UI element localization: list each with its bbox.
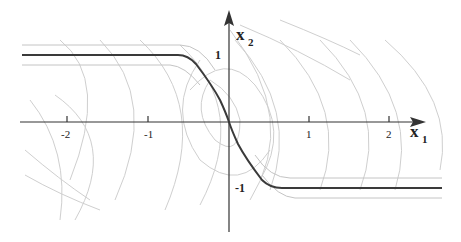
svg-text:x: x (236, 25, 245, 44)
x1-axis (20, 116, 426, 127)
x1-axis-label: x 1 (410, 122, 428, 145)
svg-text:1: 1 (422, 133, 428, 145)
x1-tick-label: 1 (306, 128, 312, 140)
x2-tick-label: 1 (215, 48, 221, 62)
trajectory-arcs (25, 20, 443, 220)
svg-text:x: x (410, 122, 419, 141)
x2-tick-label: -1 (235, 181, 245, 195)
phase-portrait-diagram: -2 -1 1 2 1 -1 x 2 x 1 (0, 0, 461, 242)
svg-text:2: 2 (248, 36, 254, 48)
x1-tick-label: -2 (61, 128, 70, 140)
x1-tick-label: 2 (386, 128, 392, 140)
x1-tick-label: -1 (144, 128, 153, 140)
